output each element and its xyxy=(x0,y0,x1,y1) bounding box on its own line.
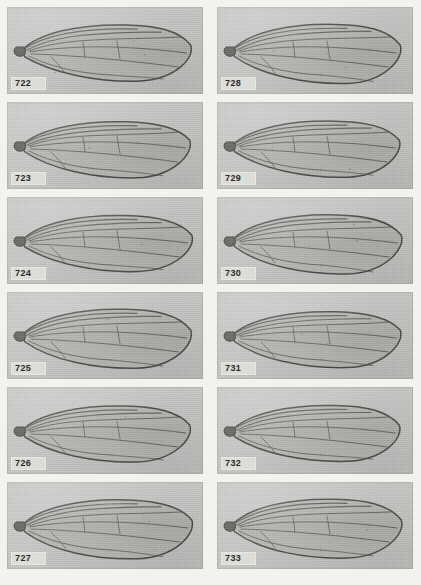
figure-number-label-728: 728 xyxy=(221,77,256,90)
plate-sheet: 722 728 723 xyxy=(0,0,421,585)
figure-number-label-732: 732 xyxy=(221,457,256,470)
wing-panel-730[interactable]: 730 xyxy=(217,197,413,284)
figure-number-label-724: 724 xyxy=(11,267,46,280)
wing-panel-732[interactable]: 732 xyxy=(217,387,413,474)
wing-panel-726[interactable]: 726 xyxy=(7,387,203,474)
wing-panel-723[interactable]: 723 xyxy=(7,102,203,189)
figure-number-label-726: 726 xyxy=(11,457,46,470)
wing-panel-728[interactable]: 728 xyxy=(217,7,413,94)
figure-number-label-725: 725 xyxy=(11,362,46,375)
wing-panel-729[interactable]: 729 xyxy=(217,102,413,189)
figure-number-label-731: 731 xyxy=(221,362,256,375)
wing-panel-731[interactable]: 731 xyxy=(217,292,413,379)
figure-number-label-730: 730 xyxy=(221,267,256,280)
figure-number-label-729: 729 xyxy=(221,172,256,185)
wing-panel-727[interactable]: 727 xyxy=(7,482,203,569)
wing-panel-733[interactable]: 733 xyxy=(217,482,413,569)
figure-number-label-722: 722 xyxy=(11,77,46,90)
wing-panel-725[interactable]: 725 xyxy=(7,292,203,379)
figure-number-label-727: 727 xyxy=(11,552,46,565)
panel-grid: 722 728 723 xyxy=(7,7,414,569)
figure-number-label-733: 733 xyxy=(221,552,256,565)
figure-number-label-723: 723 xyxy=(11,172,46,185)
wing-panel-724[interactable]: 724 xyxy=(7,197,203,284)
wing-panel-722[interactable]: 722 xyxy=(7,7,203,94)
